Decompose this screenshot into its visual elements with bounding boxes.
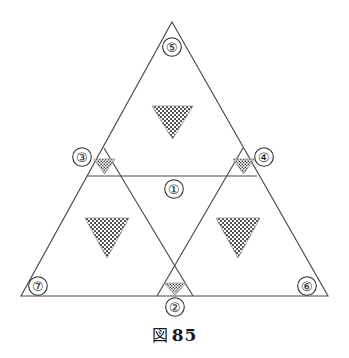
geometry-diagram: ① ② ③ ④ ⑤ ⑥ ⑦ (0, 0, 349, 358)
stippled-triangle-bottom-center (164, 283, 186, 295)
region-label-two: ② (166, 298, 185, 317)
stippled-triangles-group (85, 106, 260, 295)
stippled-triangle-top (152, 106, 193, 139)
region-label-three-text: ③ (76, 150, 88, 165)
stippled-triangle-lower-right (216, 218, 260, 258)
outer-triangle-group (21, 22, 328, 296)
stippled-triangle-near-label-three (94, 159, 115, 174)
stippled-triangle-near-label-four (233, 159, 254, 174)
region-label-five-text: ⑤ (166, 40, 178, 55)
region-label-three: ③ (73, 148, 92, 167)
region-label-seven: ⑦ (29, 277, 48, 296)
region-label-four-text: ④ (258, 150, 270, 165)
figure-caption: 図85 (0, 322, 349, 346)
stippled-triangle-lower-left (85, 218, 129, 258)
figure-caption-number: 85 (172, 325, 198, 345)
region-label-six-text: ⑥ (301, 279, 313, 294)
region-label-one-text: ① (168, 182, 180, 197)
region-label-one: ① (165, 180, 184, 199)
region-label-seven-text: ⑦ (32, 279, 44, 294)
figure-caption-symbol: 図 (152, 326, 169, 345)
region-label-four: ④ (255, 148, 274, 167)
region-label-two-text: ② (169, 300, 181, 315)
figure-container: ① ② ③ ④ ⑤ ⑥ ⑦ 図85 (0, 0, 349, 358)
outer-triangle (21, 22, 328, 296)
region-label-five: ⑤ (163, 38, 182, 57)
region-label-six: ⑥ (298, 277, 317, 296)
